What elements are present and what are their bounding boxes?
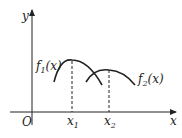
diagram: y x O f1(x) f2(x) x1 x2 (0, 0, 182, 138)
x-axis-label: x (170, 114, 177, 128)
point-label-x2: x2 (104, 114, 116, 130)
y-axis-label: y (21, 9, 29, 23)
origin-label: O (22, 115, 32, 129)
curve-label-f2: f2(x) (137, 72, 164, 88)
point-label-x1: x1 (67, 114, 79, 130)
curve-label-f1: f1(x) (35, 59, 62, 75)
